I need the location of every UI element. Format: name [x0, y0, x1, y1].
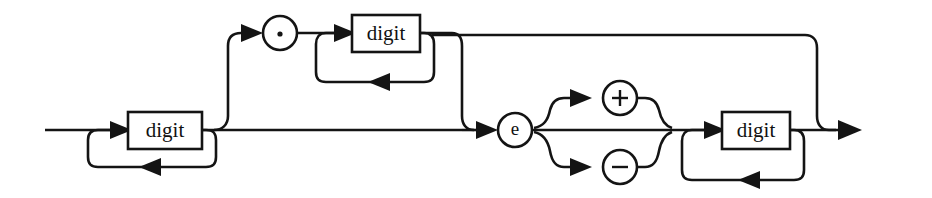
terminal-label-e: e — [511, 118, 519, 139]
sign-plus-branch-out — [637, 98, 672, 128]
sign-minus-branch-out — [637, 132, 672, 167]
terminal-label-digit-exp: digit — [737, 118, 776, 142]
dot-arrowhead — [241, 24, 263, 42]
fraction-branch-riser — [214, 33, 246, 130]
loop-arrowhead-digit-frac — [368, 73, 390, 91]
terminal-label-digit-int: digit — [146, 118, 185, 142]
minus-arrowhead — [570, 158, 592, 176]
loop-arrowhead-digit-exp — [738, 171, 760, 189]
sign-plus-branch-in — [534, 98, 572, 128]
exit-arrowhead — [838, 120, 862, 140]
syntax-diagram-canvas: digit . digit e — [0, 0, 932, 198]
terminal-label-digit-frac: digit — [367, 21, 406, 45]
e-arrowhead — [476, 121, 498, 139]
plus-arrowhead — [570, 89, 592, 107]
loop-arrowhead-digit-int — [139, 158, 161, 176]
sign-minus-branch-in — [534, 132, 572, 167]
railroad-diagram: digit . digit e — [0, 0, 932, 198]
